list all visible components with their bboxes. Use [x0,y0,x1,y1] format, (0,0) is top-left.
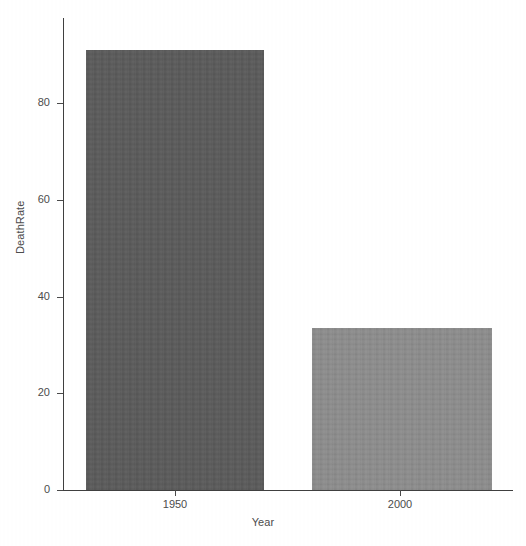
y-tick-mark-0 [57,490,63,491]
bar-1950[interactable] [86,50,264,490]
y-tick-mark-60 [57,200,63,201]
y-tick-label-text: 0 [44,484,50,495]
y-tick-mark-40 [57,297,63,298]
x-tick-label-2000: 2000 [388,499,412,510]
y-tick-label-text: 20 [38,387,50,398]
y-tick-mark-80 [57,103,63,104]
bar-2000[interactable] [312,328,492,490]
x-axis-spine [63,490,513,491]
x-tick-label-1950: 1950 [163,499,187,510]
y-tick-mark-20 [57,393,63,394]
x-tick-mark-1950 [175,490,176,496]
y-tick-label-text: 80 [38,97,50,108]
plot-area: 806040200 19502000 [0,0,526,546]
x-tick-mark-2000 [400,490,401,496]
y-tick-label-text: 60 [38,194,50,205]
y-axis-title: DeathRate [14,201,26,255]
chart-figure: 806040200 19502000 DeathRate Year [0,0,526,546]
x-axis-title: Year [0,516,526,528]
y-axis-spine [63,18,64,491]
y-tick-label-text: 40 [38,291,50,302]
